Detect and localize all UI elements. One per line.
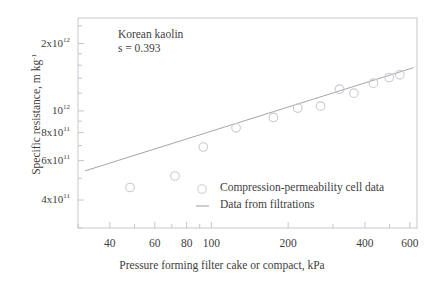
- plot-frame: [78, 18, 417, 228]
- chart-figure: Specific resistance, m kg-1 Pressure for…: [0, 0, 444, 285]
- data-point: [316, 102, 325, 111]
- legend-marker-circle: [198, 185, 207, 194]
- data-point: [385, 73, 394, 82]
- data-point: [335, 85, 344, 94]
- data-point: [293, 104, 302, 113]
- data-point: [171, 172, 180, 181]
- data-point: [350, 89, 359, 98]
- data-point: [199, 143, 208, 152]
- fit-line: [85, 68, 413, 171]
- data-point: [269, 113, 278, 122]
- data-point: [126, 183, 135, 192]
- plot-area: [0, 0, 444, 285]
- data-point: [232, 124, 241, 133]
